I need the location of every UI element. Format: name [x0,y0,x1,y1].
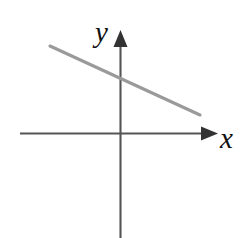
y-axis-label: y [95,18,108,47]
x-axis-arrowhead-icon [201,127,218,141]
y-axis-arrowhead-icon [114,30,128,47]
plotted-line [50,46,200,115]
coordinate-plane-figure: y x [0,0,244,238]
graph-canvas [0,0,244,238]
x-axis-label: x [220,124,233,153]
